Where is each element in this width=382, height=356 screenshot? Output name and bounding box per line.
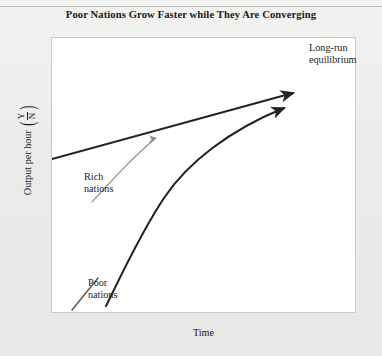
y-axis-label-text: Output per hour bbox=[22, 130, 33, 195]
y-axis-label: Output per hour ( Y N ) bbox=[17, 65, 37, 235]
fraction-denominator: N bbox=[28, 113, 38, 120]
paren-close-icon: ) bbox=[20, 106, 34, 110]
annotation-long-run-equilibrium: Long-run equilibrium bbox=[309, 42, 357, 65]
annotation-rich-nations: Rich nations bbox=[84, 171, 113, 194]
paren-open-icon: ( bbox=[20, 122, 34, 126]
y-axis-fraction: ( Y N ) bbox=[17, 105, 37, 127]
fraction-stack: Y N bbox=[17, 111, 37, 120]
page-background: Poor Nations Grow Faster while They Are … bbox=[0, 0, 382, 356]
page-top-rule bbox=[0, 6, 382, 7]
chart-title: Poor Nations Grow Faster while They Are … bbox=[0, 9, 382, 20]
x-axis-label: Time bbox=[51, 327, 356, 338]
fraction-numerator: Y bbox=[17, 113, 27, 120]
annotation-poor-nations: Poor nations bbox=[88, 277, 117, 300]
rich-nations-line bbox=[52, 93, 293, 159]
